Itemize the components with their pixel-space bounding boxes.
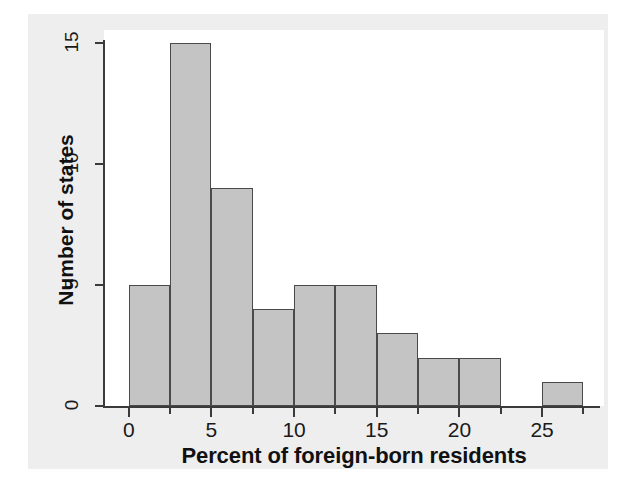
y-axis-tick-label: 15 — [61, 22, 83, 62]
x-axis-minor-tick — [169, 408, 171, 414]
x-axis-minor-tick — [582, 408, 584, 414]
y-axis-line — [103, 40, 105, 407]
histogram-bar — [542, 382, 583, 406]
x-axis-tick — [128, 408, 130, 417]
y-axis-tick — [95, 42, 103, 44]
histogram-bar — [129, 285, 170, 406]
x-axis-tick-label: 0 — [107, 418, 151, 442]
histogram-bar — [335, 285, 376, 406]
x-axis-tick — [293, 408, 295, 417]
histogram-bar — [377, 333, 418, 406]
x-axis-tick-label: 10 — [272, 418, 316, 442]
x-axis-minor-tick — [417, 408, 419, 414]
y-axis-title: Number of states — [54, 110, 78, 330]
x-axis-tick-label: 15 — [355, 418, 399, 442]
histogram-bar — [170, 43, 211, 406]
x-axis-minor-tick — [334, 408, 336, 414]
x-axis-tick — [376, 408, 378, 417]
y-axis-tick — [95, 163, 103, 165]
histogram-bar — [418, 358, 459, 406]
y-axis-tick — [95, 284, 103, 286]
x-axis-tick-label: 20 — [437, 418, 481, 442]
x-axis-tick-label: 25 — [520, 418, 564, 442]
y-axis-tick-label: 0 — [61, 385, 83, 425]
x-axis-tick-label: 5 — [189, 418, 233, 442]
histogram-bar — [294, 285, 335, 406]
x-axis-title: Percent of foreign-born residents — [104, 443, 604, 469]
histogram-figure: 051015 0510152025 Number of states Perce… — [0, 0, 636, 493]
histogram-bar — [253, 309, 294, 406]
x-axis-minor-tick — [252, 408, 254, 414]
x-axis-tick — [458, 408, 460, 417]
y-axis-tick — [95, 405, 103, 407]
histogram-bar — [459, 358, 500, 406]
x-axis-tick — [541, 408, 543, 417]
x-axis-line — [103, 406, 600, 408]
x-axis-tick — [210, 408, 212, 417]
x-axis-minor-tick — [500, 408, 502, 414]
histogram-bar — [211, 188, 252, 406]
